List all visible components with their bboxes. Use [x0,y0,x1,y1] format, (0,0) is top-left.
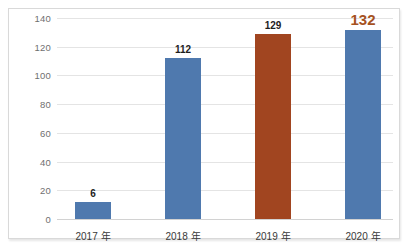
gridline-80: 80 [57,104,393,105]
bar-value-label: 6 [90,188,96,199]
y-axis-tick-label: 20 [40,185,51,196]
bar-value-label: 112 [175,44,191,55]
gridline-120: 120 [57,47,393,48]
y-axis-tick-label: 0 [46,214,51,225]
gridline-140: 140 [57,18,393,19]
bar-2019[interactable]: 129 2019 年 [255,34,291,219]
y-axis-tick-label: 120 [35,41,51,52]
x-axis-tick-label: 2018 年 [165,228,200,243]
chart-container: 140 120 100 80 60 40 20 0 6 2017 年 112 [8,8,400,239]
gridline-40: 40 [57,162,393,163]
bar-value-label: 129 [265,20,282,31]
gridline-60: 60 [57,133,393,134]
bar-value-label-highlighted: 132 [350,11,375,28]
gridline-100: 100 [57,75,393,76]
plot-area: 140 120 100 80 60 40 20 0 6 2017 年 112 [57,18,393,219]
x-axis-tick-label: 2020 年 [345,228,380,243]
bar-2020[interactable]: 132 2020 年 [345,30,381,220]
gridline-zero-axis: 0 [57,219,393,220]
y-axis-tick-label: 140 [35,13,51,24]
y-axis-tick-label: 60 [40,127,51,138]
y-axis-tick-label: 80 [40,99,51,110]
x-axis-tick-label: 2019 年 [255,228,290,243]
x-axis-tick-label: 2017 年 [75,228,110,243]
bar-2017[interactable]: 6 2017 年 [75,202,111,219]
bar-2018[interactable]: 112 2018 年 [165,58,201,219]
y-axis-tick-label: 100 [35,70,51,81]
y-axis-tick-label: 40 [40,156,51,167]
gridline-20: 20 [57,190,393,191]
